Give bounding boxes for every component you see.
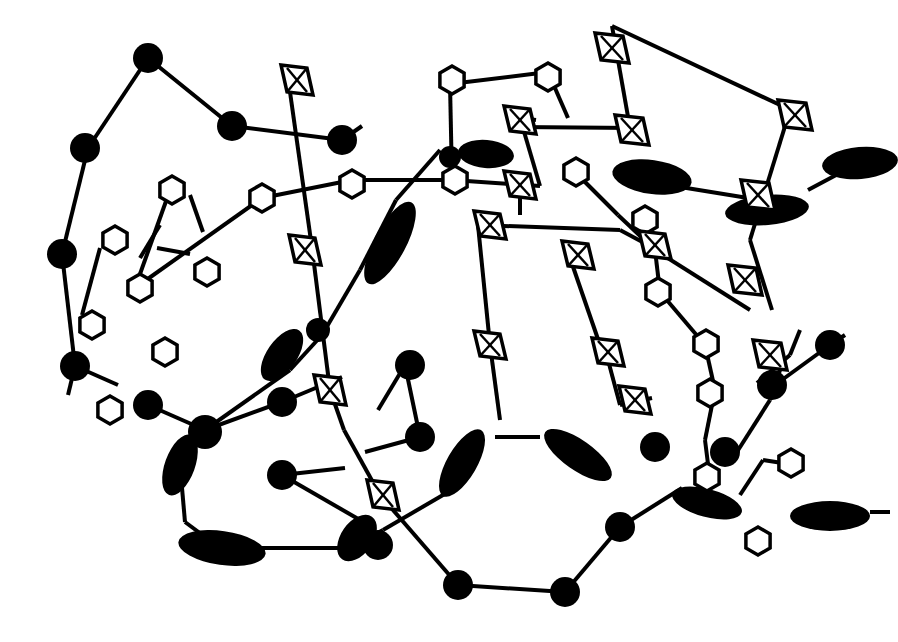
filled-sphere-icon xyxy=(605,512,635,542)
filled-sphere-icon xyxy=(327,125,357,155)
bond-line xyxy=(740,460,763,495)
crossed-bipyramid-icon xyxy=(592,338,624,366)
filled-sphere-icon xyxy=(395,350,425,380)
filled-sphere-icon xyxy=(405,422,435,452)
crossed-bipyramid-icon xyxy=(639,231,671,259)
hexagon-ring-icon xyxy=(633,206,657,234)
filled-sphere-icon xyxy=(217,111,247,141)
filled-sphere-icon xyxy=(363,530,393,560)
crossed-bipyramid-icon xyxy=(619,386,651,414)
hexagon-ring-icon xyxy=(195,258,219,286)
crossed-bipyramid-icon xyxy=(314,375,346,405)
hexagon-ring-icon xyxy=(746,527,770,555)
sphere-units xyxy=(47,43,845,607)
crossed-bipyramid-icon xyxy=(504,171,536,199)
crossed-bipyramid-icon xyxy=(562,241,594,269)
filled-sphere-icon xyxy=(133,390,163,420)
filled-sphere-icon xyxy=(60,351,90,381)
bond-line xyxy=(290,92,312,248)
crossed-bipyramid-icon xyxy=(753,340,787,370)
filled-sphere-icon xyxy=(70,133,100,163)
filled-sphere-icon xyxy=(47,239,77,269)
filled-sphere-icon xyxy=(757,370,787,400)
bond-line xyxy=(140,225,160,258)
bond-lines xyxy=(62,26,890,592)
hexagon-ring-icon xyxy=(695,463,719,491)
crossed-bipyramid-icon xyxy=(741,180,775,210)
crossed-bipyramid-icon xyxy=(474,331,506,359)
crossed-bipyramid-icon xyxy=(474,211,506,239)
hexagon-ring-icon xyxy=(103,226,127,254)
hexagon-ring-icon xyxy=(698,379,722,407)
hexagon-ring-icon xyxy=(98,396,122,424)
hexagon-ring-icon xyxy=(779,449,803,477)
bond-line xyxy=(232,126,342,140)
bond-line xyxy=(82,248,100,315)
hexagon-ring-icon xyxy=(646,278,670,306)
bond-line xyxy=(62,148,88,254)
hexagon-ring-icon xyxy=(80,311,104,339)
bond-line xyxy=(62,254,75,366)
filled-sphere-icon xyxy=(640,432,670,462)
filled-sphere-icon xyxy=(267,387,297,417)
rod-ellipsoid-icon xyxy=(790,501,870,531)
rod-ellipsoid-icon xyxy=(457,138,515,171)
hexagon-ring-icon xyxy=(128,274,152,302)
filled-sphere-icon xyxy=(133,43,163,73)
filled-sphere-icon xyxy=(443,570,473,600)
crossed-bipyramid-icon xyxy=(615,115,649,145)
bond-line xyxy=(190,195,203,232)
molecular-network-diagram xyxy=(0,0,898,642)
crossed-bipyramid-icon xyxy=(504,106,536,134)
crossed-bipyramid-icon xyxy=(281,65,313,95)
filled-sphere-icon xyxy=(267,460,297,490)
hexagon-ring-icon xyxy=(440,66,464,94)
crossed-bipyramid-icon xyxy=(367,480,399,510)
hexagon-ring-icon xyxy=(443,166,467,194)
crossed-bipyramid-icon xyxy=(728,265,762,295)
filled-sphere-icon xyxy=(815,330,845,360)
hexagon-ring-icon xyxy=(694,330,718,358)
bond-line xyxy=(570,258,600,345)
crossed-bipyramid-icon xyxy=(289,235,321,265)
hexagon-ring-icon xyxy=(250,184,274,212)
rod-ellipsoid-icon xyxy=(610,155,694,200)
filled-sphere-icon xyxy=(306,318,330,342)
filled-sphere-icon xyxy=(188,415,222,449)
bond-line xyxy=(458,585,565,592)
crossed-bipyramid-icon xyxy=(595,33,629,63)
rod-ellipsoid-icon xyxy=(430,423,494,504)
rod-ellipsoid-icon xyxy=(537,420,620,490)
hexagon-ring-icon xyxy=(160,176,184,204)
filled-sphere-icon xyxy=(550,577,580,607)
bond-line xyxy=(735,400,770,455)
filled-sphere-icon xyxy=(439,146,461,168)
hexagon-ring-icon xyxy=(153,338,177,366)
bond-line xyxy=(396,150,440,200)
bond-line xyxy=(88,58,148,148)
hexagon-ring-icon xyxy=(340,170,364,198)
bond-line xyxy=(478,225,490,345)
crossed-bipyramid-icon xyxy=(778,100,812,130)
rod-ellipsoid-icon xyxy=(176,525,268,571)
hexagon-ring-icon xyxy=(564,158,588,186)
hexagon-ring-icon xyxy=(536,63,560,91)
filled-sphere-icon xyxy=(710,437,740,467)
bond-line xyxy=(790,330,800,355)
bond-line xyxy=(612,26,795,112)
bond-line xyxy=(148,58,232,126)
